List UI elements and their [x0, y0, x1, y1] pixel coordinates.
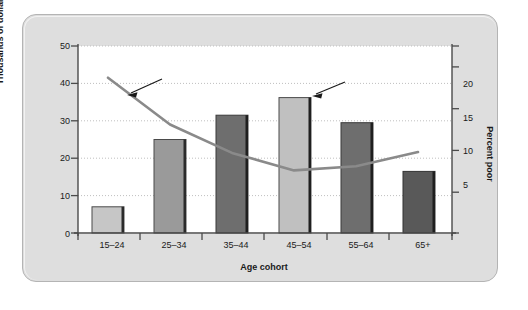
figure-container: Thousands of dollars Percent poor Age co… — [0, 0, 528, 310]
y-axis-right-ticks — [452, 46, 459, 233]
bar-65plus — [403, 171, 435, 233]
bar-45-54 — [279, 98, 311, 233]
x-axis-ticks — [78, 233, 452, 240]
plot-area-background — [78, 46, 452, 234]
bar-55-64 — [341, 123, 373, 233]
bar-35-44 — [216, 115, 248, 233]
y-axis-left-ticks — [71, 46, 78, 233]
bar-25-34 — [154, 140, 186, 234]
bar-15-24 — [92, 207, 124, 233]
chart-svg — [0, 0, 528, 310]
